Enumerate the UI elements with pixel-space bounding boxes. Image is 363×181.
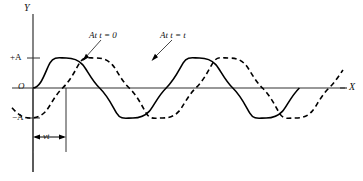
tick-label-minus-a: −A bbox=[12, 113, 24, 122]
tick-label-plus-a: +A bbox=[10, 53, 22, 62]
annotation-label-t0: At t = 0 bbox=[89, 31, 117, 40]
annotation-label-tt: At t = t bbox=[160, 31, 186, 40]
diagram-canvas bbox=[0, 0, 363, 181]
origin-label: O bbox=[18, 82, 25, 91]
leader-tt bbox=[152, 40, 173, 61]
x-axis-label: X bbox=[349, 82, 355, 92]
y-axis-label: Y bbox=[24, 3, 30, 13]
wave-diagram-figure: Y X +A O −A At t = 0 At t = t vt bbox=[0, 0, 363, 181]
vt-dimension-label: vt bbox=[43, 132, 50, 141]
